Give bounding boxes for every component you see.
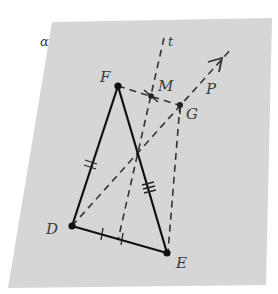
point-D bbox=[68, 222, 75, 229]
label-t: t bbox=[168, 34, 174, 49]
plane-label: α bbox=[40, 34, 49, 49]
plane-alpha bbox=[8, 18, 272, 288]
label-F: F bbox=[99, 68, 111, 86]
label-G: G bbox=[186, 105, 198, 123]
label-M: M bbox=[157, 77, 174, 95]
geometry-diagram: α F D E M G t P bbox=[0, 0, 278, 294]
label-D: D bbox=[45, 220, 58, 238]
point-G bbox=[177, 102, 183, 108]
label-P: P bbox=[205, 80, 217, 98]
point-E bbox=[163, 249, 170, 256]
label-E: E bbox=[175, 254, 187, 272]
point-M bbox=[148, 93, 154, 99]
point-F bbox=[114, 82, 121, 89]
